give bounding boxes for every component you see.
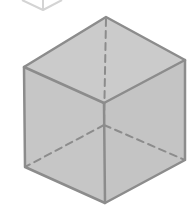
cube-diagram xyxy=(0,0,196,205)
front-edge-vertical xyxy=(104,103,105,203)
